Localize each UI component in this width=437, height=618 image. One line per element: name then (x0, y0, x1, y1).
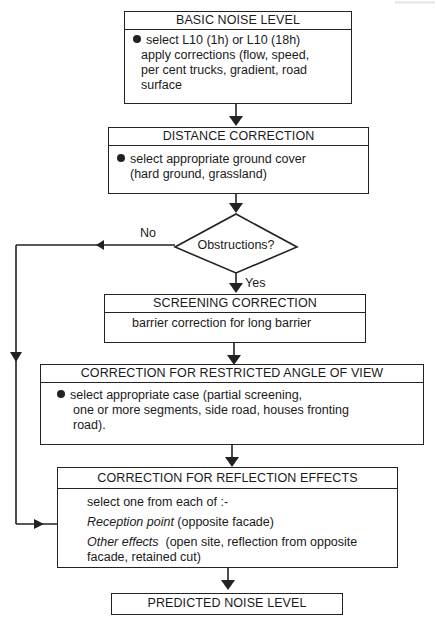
box-title: SCREENING CORRECTION (105, 295, 365, 313)
basic-noise-level-box: BASIC NOISE LEVEL select L10 (1h) or L10… (124, 11, 352, 104)
box-line: (open site, reflection from opposite (159, 535, 358, 549)
box-line: barrier correction for long barrier (105, 313, 365, 335)
box-line: apply corrections (flow, speed, (133, 48, 343, 63)
other-effects-label: Other effects (87, 535, 159, 549)
box-title: CORRECTION FOR REFLECTION EFFECTS (58, 468, 397, 489)
bullet-icon (57, 390, 65, 398)
predicted-noise-level-box: PREDICTED NOISE LEVEL (111, 593, 343, 615)
bullet-icon (117, 154, 125, 162)
reception-point-label: Reception point (87, 515, 174, 529)
screening-correction-box: SCREENING CORRECTION barrier correction … (104, 294, 366, 343)
box-title: DISTANCE CORRECTION (109, 128, 368, 146)
box-line: facade, retained cut) (87, 550, 389, 565)
box-title: PREDICTED NOISE LEVEL (112, 594, 342, 613)
no-label: No (140, 226, 156, 240)
box-line: select appropriate ground cover (130, 152, 306, 166)
box-title: BASIC NOISE LEVEL (125, 12, 351, 30)
box-line: (opposite facade) (174, 515, 274, 529)
box-line: select one from each of :- (87, 495, 389, 510)
box-title: CORRECTION FOR RESTRICTED ANGLE OF VIEW (41, 365, 423, 383)
box-line: surface (133, 78, 343, 93)
distance-correction-box: DISTANCE CORRECTION select appropriate g… (108, 127, 369, 194)
bullet-icon (133, 35, 141, 43)
box-line: select appropriate case (partial screeni… (70, 388, 302, 402)
restricted-angle-box: CORRECTION FOR RESTRICTED ANGLE OF VIEW … (40, 364, 424, 445)
box-line: road). (73, 418, 415, 433)
yes-label: Yes (245, 276, 265, 290)
box-line: one or more segments, side road, houses … (73, 403, 415, 418)
box-line: (hard ground, grassland) (117, 167, 360, 182)
box-line: per cent trucks, gradient, road (133, 63, 343, 78)
box-line: select L10 (1h) or L10 (18h) (146, 33, 300, 47)
reflection-effects-box: CORRECTION FOR REFLECTION EFFECTS select… (57, 467, 398, 568)
decision-question: Obstructions? (190, 238, 282, 252)
